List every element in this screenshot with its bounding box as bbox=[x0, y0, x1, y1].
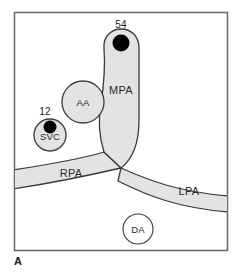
panel-letter: A bbox=[14, 255, 22, 268]
mpa-label: MPA bbox=[109, 84, 133, 96]
svc-measurement-value: 12 bbox=[39, 106, 51, 117]
lpa-label: LPA bbox=[179, 185, 200, 197]
svc-label: SVC bbox=[40, 131, 60, 142]
rpa-label: RPA bbox=[60, 167, 83, 179]
pulmonary-artery-diagram: MPA RPA LPA AA SVC DA 54 12 bbox=[0, 0, 241, 274]
mpa-measurement-value: 54 bbox=[115, 19, 127, 30]
aa-label: AA bbox=[76, 97, 90, 108]
da-label: DA bbox=[131, 224, 145, 235]
mpa-measurement-marker-icon bbox=[113, 35, 130, 52]
figure-panel: MPA RPA LPA AA SVC DA 54 12 A bbox=[0, 0, 241, 274]
